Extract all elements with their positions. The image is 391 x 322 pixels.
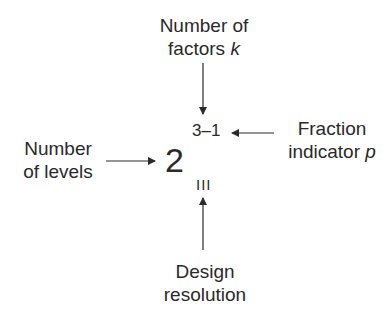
arrows-layer — [0, 0, 391, 322]
